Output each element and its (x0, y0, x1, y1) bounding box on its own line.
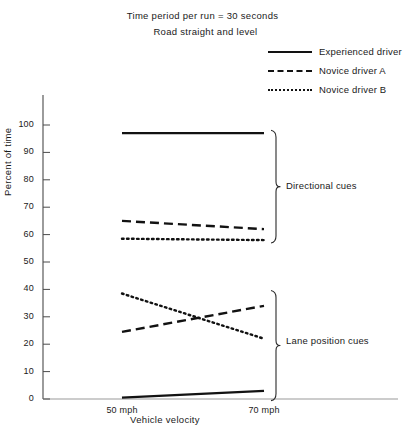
chart-plot-area (0, 0, 405, 442)
chart-figure: Time period per run = 30 seconds Road st… (0, 0, 405, 442)
annotation-label-directional-cues: Directional cues (286, 180, 357, 191)
series-line-dotted (122, 239, 264, 240)
series-line-dotted (122, 294, 264, 339)
bracket-directional-cues (271, 130, 280, 243)
series-line-dashed (122, 221, 264, 229)
bracket-lane-position-cues (271, 291, 280, 401)
series-line-dashed (122, 306, 264, 332)
annotation-label-lane-position-cues: Lane position cues (286, 335, 369, 346)
series-line-solid (122, 391, 264, 398)
